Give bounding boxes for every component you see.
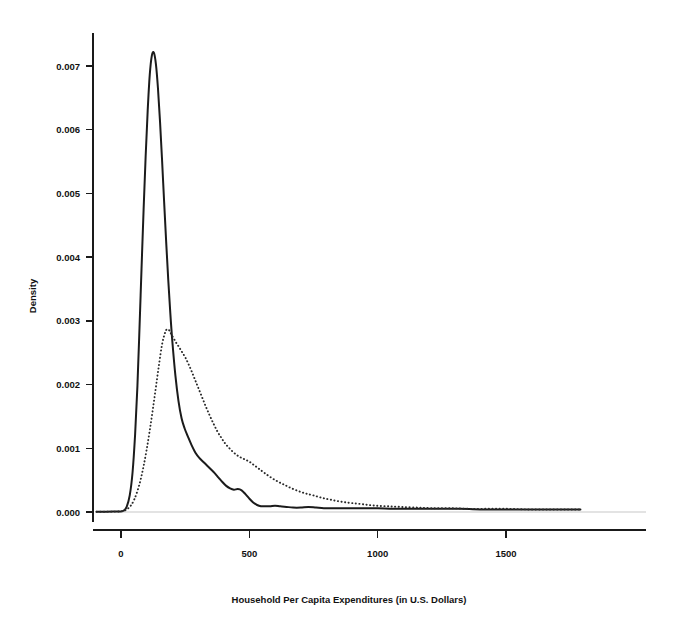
series-group	[97, 52, 581, 512]
y-tick-label: 0.004	[56, 252, 80, 263]
x-tick-label: 500	[241, 548, 257, 559]
y-tick-label: 0.003	[56, 315, 80, 326]
x-tick-label: 1000	[367, 548, 388, 559]
y-tick-label: 0.006	[56, 124, 80, 135]
density-curve-solid	[97, 52, 581, 512]
x-tick-label: 0	[118, 548, 123, 559]
y-axis-ticks	[86, 66, 93, 512]
y-axis-title: Density	[27, 278, 38, 313]
y-tick-label: 0.005	[56, 188, 80, 199]
y-tick-label: 0.002	[56, 379, 80, 390]
density-plot-figure: 0.0000.0010.0020.0030.0040.0050.0060.007…	[0, 0, 677, 629]
y-tick-label: 0.000	[56, 507, 80, 518]
y-tick-label: 0.001	[56, 443, 80, 454]
x-axis-tick-labels: 050010001500	[118, 548, 516, 559]
x-axis-group: 050010001500 Household Per Capita Expend…	[93, 530, 646, 605]
chart-canvas: 0.0000.0010.0020.0030.0040.0050.0060.007…	[0, 0, 677, 629]
y-tick-label: 0.007	[56, 61, 80, 72]
x-axis-ticks	[121, 530, 506, 538]
density-curve-dotted	[97, 329, 581, 512]
x-axis-title: Household Per Capita Expenditures (in U.…	[232, 594, 467, 605]
y-axis-group: 0.0000.0010.0020.0030.0040.0050.0060.007…	[27, 33, 93, 522]
x-tick-label: 1500	[495, 548, 516, 559]
y-axis-tick-labels: 0.0000.0010.0020.0030.0040.0050.0060.007	[56, 61, 80, 518]
